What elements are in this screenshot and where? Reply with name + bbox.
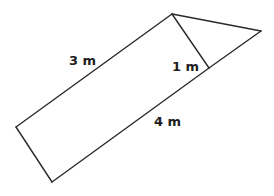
label-4m: 4 m: [154, 114, 181, 129]
rectangle-long-side-bottom: [52, 68, 209, 182]
triangle-top-edge: [172, 14, 261, 31]
label-1m: 1 m: [172, 59, 199, 74]
rectangle-short-side-left: [16, 127, 52, 182]
label-3m: 3 m: [69, 53, 96, 68]
triangle-right-edge: [209, 31, 261, 68]
geometry-diagram: 3 m 1 m 4 m: [0, 0, 274, 196]
rectangle-long-side-top: [16, 14, 172, 127]
